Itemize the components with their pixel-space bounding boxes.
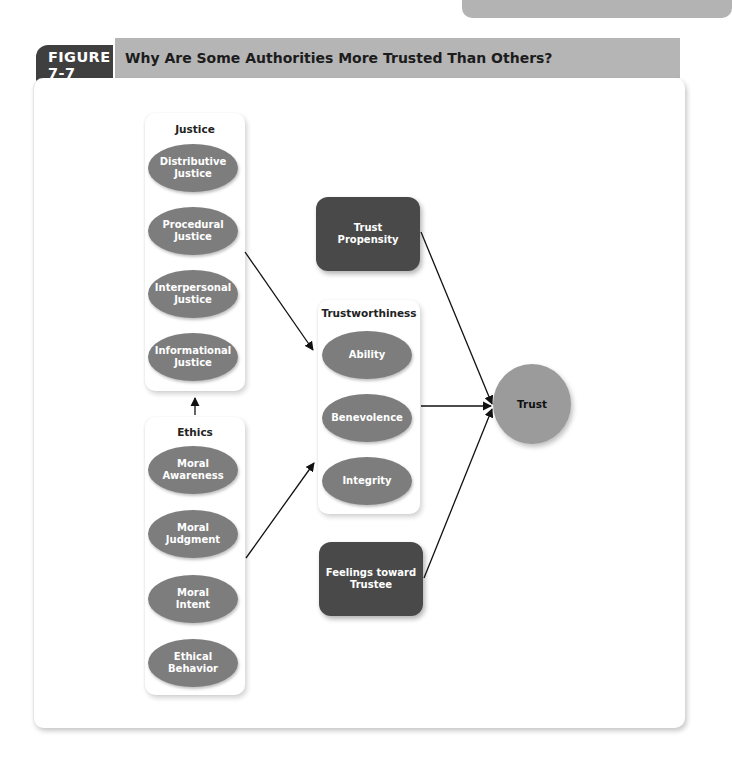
arrow-ethics-to-trustworthiness (246, 463, 314, 558)
arrow-justice-to-trustworthiness (245, 252, 313, 350)
arrow-feelings-to-trust (424, 409, 492, 578)
arrow-propensity-to-trust (421, 232, 492, 404)
